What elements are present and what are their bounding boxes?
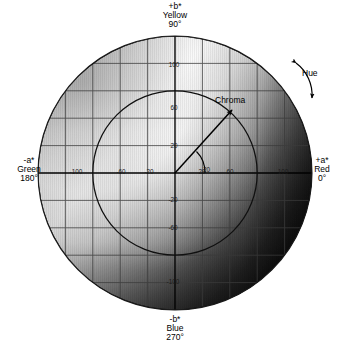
- hue-angle-tick-label: 20: [203, 166, 210, 173]
- cardinal-right-angle: 0°: [297, 174, 347, 183]
- y-tick-label-1: 60: [164, 104, 184, 111]
- chromaticity-diagram: +b* Yellow 90° -b* Blue 270° -a* Green 1…: [0, 0, 349, 354]
- x-tick-label-1: -60: [110, 168, 132, 175]
- y-tick-label-3: -20: [162, 196, 184, 203]
- x-tick-label-4: 60: [220, 168, 240, 175]
- x-tick-label-2: -20: [138, 168, 160, 175]
- cardinal-label-top: +b* Yellow 90°: [149, 2, 201, 30]
- cardinal-top-angle: 90°: [149, 20, 201, 29]
- cardinal-left-angle: 180°: [3, 174, 55, 183]
- chroma-annotation-label: Chroma: [215, 95, 245, 105]
- hue-annotation-label: Hue: [302, 68, 318, 78]
- y-tick-label-2: 20: [164, 142, 184, 149]
- x-tick-label-0: -100: [64, 168, 88, 175]
- x-tick-label-5: 100: [272, 168, 294, 175]
- cardinal-label-bottom: -b* Blue 270°: [149, 315, 201, 343]
- y-tick-label-4: -60: [162, 224, 184, 231]
- cardinal-label-left: -a* Green 180°: [3, 156, 55, 184]
- y-tick-label-0: 100: [163, 61, 185, 68]
- y-tick-label-5: -100: [161, 278, 185, 285]
- cardinal-bottom-angle: 270°: [149, 333, 201, 342]
- cardinal-label-right: +a* Red 0°: [297, 156, 347, 184]
